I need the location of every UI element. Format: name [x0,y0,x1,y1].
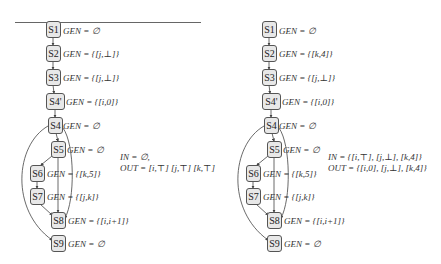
in-out-label-right: IN = {[i,⊤], [j,⊥], [k,4]} OUT = {[i,0],… [328,152,427,174]
node-s8: S8 [267,212,282,229]
node-s2: S2 [262,45,277,62]
gen-s5: GEN = ∅ [67,144,104,156]
node-s7: S7 [30,188,45,205]
gen-s5: GEN = ∅ [283,144,320,156]
gen-s6: GEN = {[k,5]} [263,168,317,180]
in-set: IN = {[i,⊤], [j,⊥], [k,4]} [328,152,427,163]
node-s9: S9 [51,235,66,252]
node-s4-prime: S4' [46,93,65,110]
gen-s2: GEN = {[k,4]} [279,48,333,60]
gen-s1: GEN = ∅ [63,25,100,37]
node-s7: S7 [246,188,261,205]
gen-s8: GEN = {[i,i+1]} [284,215,345,227]
gen-s3: GEN = {[j,⊥]} [279,72,335,84]
gen-s8: GEN = {[i,i+1]} [68,215,129,227]
gen-s4: GEN = ∅ [279,120,316,132]
gen-s6: GEN = {[k,5]} [47,168,101,180]
out-set: OUT = [i,⊤] [j,⊤] [k,⊤] [120,163,215,174]
node-s3: S3 [46,69,61,86]
node-s5: S5 [51,141,66,158]
gen-s4: GEN = ∅ [63,120,100,132]
in-set: IN = ∅, [120,152,215,163]
node-s2: S2 [46,45,61,62]
node-s6: S6 [246,165,261,182]
gen-s2: GEN = {[j,⊥]} [63,48,119,60]
node-s1: S1 [262,21,277,38]
node-s4: S4 [48,117,63,134]
node-s5: S5 [267,141,282,158]
gen-s4-prime: GEN = {[i,0]} [282,96,334,108]
cfg-diagram-right: S1 GEN = ∅ S2 GEN = {[k,4]} S3 GEN = {[j… [216,0,436,264]
node-s3: S3 [262,69,277,86]
gen-s4-prime: GEN = {[i,0]} [66,96,118,108]
gen-s3: GEN = {[j,⊥]} [63,72,119,84]
gen-s1: GEN = ∅ [279,25,316,37]
out-set: OUT = {[i,0], [j,⊥], [k,4]} [328,163,427,174]
gen-s9: GEN = ∅ [68,238,105,250]
cfg-diagram-left: S1 GEN = ∅ S2 GEN = {[j,⊥]} S3 GEN = {[j… [0,0,220,264]
gen-s7: GEN = {[j,k]} [263,191,315,203]
node-s4-prime: S4' [262,93,281,110]
node-s6: S6 [30,165,45,182]
in-out-label-left: IN = ∅, OUT = [i,⊤] [j,⊤] [k,⊤] [120,152,215,174]
node-s1: S1 [46,21,61,38]
node-s9: S9 [267,235,282,252]
gen-s9: GEN = ∅ [284,238,321,250]
node-s4: S4 [264,117,279,134]
node-s8: S8 [51,212,66,229]
gen-s7: GEN = {[j,k]} [47,191,99,203]
